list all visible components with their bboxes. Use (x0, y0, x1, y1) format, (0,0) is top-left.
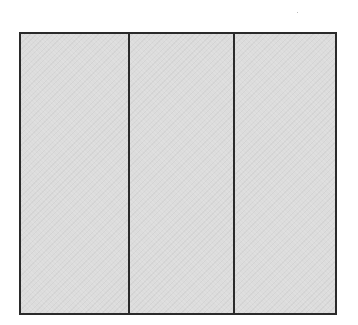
stray-mark (297, 12, 298, 13)
section-3 (233, 34, 335, 313)
section-2 (128, 34, 233, 313)
section-1 (21, 34, 128, 313)
partitioned-rectangle (19, 32, 337, 315)
